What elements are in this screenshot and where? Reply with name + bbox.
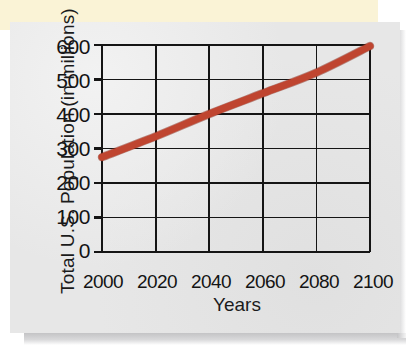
x-axis-tick-2100: 2100	[339, 271, 407, 293]
x-axis-title: Years	[98, 294, 376, 316]
chart-card: 600 500 400 300 200 100 0 2000 2020 2040…	[10, 22, 400, 333]
figure-page: 600 500 400 300 200 100 0 2000 2020 2040…	[0, 0, 416, 362]
y-axis-title: Total U.S. Population (in millions)	[57, 1, 79, 301]
card-drop-shadow	[24, 333, 406, 345]
